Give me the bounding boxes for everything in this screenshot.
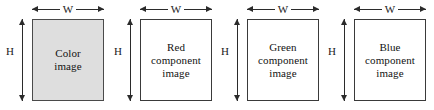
rgb-decomposition-diagram: H W Color image = H W Red component imag… (0, 0, 434, 110)
height-arrow (18, 19, 27, 101)
width-arrow-head-left (140, 6, 146, 12)
width-arrow: W (140, 5, 212, 14)
height-arrow-head-up (341, 19, 347, 25)
color-image-box-label: Color image (54, 47, 81, 73)
width-label: W (382, 4, 398, 15)
height-arrow-head-down (127, 95, 133, 101)
blue-component-box: Blue component image (354, 19, 426, 101)
height-label: H (3, 45, 17, 58)
height-arrow-head-down (341, 95, 347, 101)
width-arrow: W (247, 5, 319, 14)
width-label: W (168, 4, 184, 15)
color-image-box: Color image (32, 19, 104, 101)
width-label: W (60, 4, 76, 15)
panel-red-component: = H W Red component image (108, 0, 216, 110)
width-arrow: W (32, 5, 104, 14)
width-arrow-head-right (98, 6, 104, 12)
height-arrow-head-up (234, 19, 240, 25)
height-label: H (325, 45, 339, 58)
height-arrow-line (130, 19, 131, 101)
height-arrow (340, 19, 349, 101)
panel-blue-component: + H W Blue component image (322, 0, 430, 110)
height-arrow-head-down (234, 95, 240, 101)
green-component-box: Green component image (247, 19, 319, 101)
panel-green-component: + H W Green component image (215, 0, 323, 110)
width-label: W (275, 4, 291, 15)
height-arrow (233, 19, 242, 101)
width-arrow-head-left (32, 6, 38, 12)
height-arrow-head-down (19, 95, 25, 101)
width-arrow-head-right (206, 6, 212, 12)
width-arrow-head-right (420, 6, 426, 12)
blue-component-box-label: Blue component image (365, 41, 415, 80)
height-arrow-line (237, 19, 238, 101)
width-arrow-head-left (247, 6, 253, 12)
height-label: H (218, 45, 232, 58)
red-component-box-label: Red component image (151, 41, 201, 80)
height-arrow-line (344, 19, 345, 101)
width-arrow-head-left (354, 6, 360, 12)
height-arrow-line (22, 19, 23, 101)
height-arrow-head-up (127, 19, 133, 25)
green-component-box-label: Green component image (258, 41, 308, 80)
height-label: H (111, 45, 125, 58)
width-arrow: W (354, 5, 426, 14)
height-arrow (126, 19, 135, 101)
panel-color-image: H W Color image (0, 0, 108, 110)
height-arrow-head-up (19, 19, 25, 25)
width-arrow-head-right (313, 6, 319, 12)
red-component-box: Red component image (140, 19, 212, 101)
